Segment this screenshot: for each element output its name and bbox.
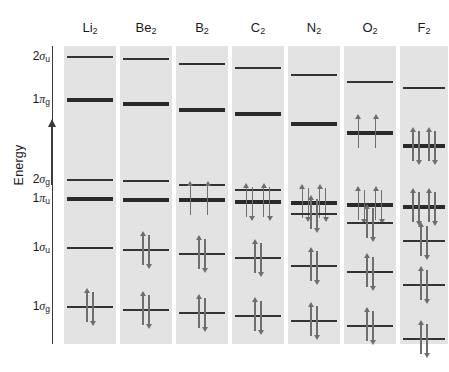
- electron-down-F2-2sigma_g-0-stem: [426, 226, 427, 256]
- mo-energy-diagram: Energy 2σu1πg2σg1πu1σu1σg Li2Be2B2C2N2O2…: [0, 0, 449, 372]
- electron-up-O2-1pi_u-0-head-icon: [355, 186, 361, 191]
- energy-level-Li2-2sigma_u: [67, 56, 113, 58]
- electron-down-C2-1pi_u-0-stem: [252, 187, 253, 217]
- energy-level-C2-2sigma_u: [235, 67, 281, 69]
- electron-down-B2-1sigma_u-0-head-icon: [202, 268, 208, 273]
- electron-down-F2-1pi_u-0-stem: [418, 192, 419, 222]
- electron-down-Li2-1sigma_g-0-head-icon: [90, 321, 96, 326]
- electron-down-F2-1pi_u-1-stem: [434, 192, 435, 222]
- energy-level-Be2-1pi_g: [123, 102, 169, 105]
- electron-up-B2-1sigma_u-0-stem: [198, 239, 199, 269]
- electron-down-F2-1pi_g-1-head-icon: [432, 160, 438, 165]
- energy-level-Li2-2sigma_g: [67, 179, 113, 181]
- column-header-Be2: Be2: [120, 20, 172, 36]
- column-header-N2: N2: [288, 20, 340, 36]
- electron-up-F2-1pi_u-1-head-icon: [426, 188, 432, 193]
- electron-down-N2-1sigma_u-0-head-icon: [314, 280, 320, 285]
- electron-down-C2-1pi_u-1-stem: [269, 187, 270, 217]
- electron-down-O2-2sigma_g-0-stem: [372, 208, 373, 238]
- energy-level-Li2-1pi_g: [67, 98, 113, 101]
- orbital-label-text: 2σu: [33, 49, 50, 63]
- electron-up-C2-1pi_u-0-head-icon: [243, 183, 249, 188]
- column-header-text: F2: [418, 20, 431, 35]
- energy-level-Be2-1pi_u: [123, 198, 169, 201]
- energy-level-F2-1pi_g: [403, 144, 445, 147]
- energy-level-O2-1pi_u: [347, 203, 393, 206]
- electron-up-B2-1sigma_u-0-head-icon: [196, 235, 202, 240]
- energy-level-B2-1pi_g: [179, 108, 225, 111]
- orbital-label-1sigma_g: 1σg: [33, 300, 50, 314]
- energy-level-C2-1pi_u: [235, 200, 281, 203]
- electron-up-F2-1pi_g-1-head-icon: [426, 127, 432, 132]
- electron-down-Be2-1sigma_u-0-stem: [148, 235, 149, 265]
- energy-level-O2-1sigma_u: [347, 271, 393, 273]
- column-header-text: Be2: [136, 20, 157, 35]
- electron-down-Li2-1sigma_g-0-stem: [92, 292, 93, 322]
- electron-down-C2-1sigma_u-0-stem: [260, 243, 261, 273]
- energy-level-F2-2sigma_u: [403, 87, 445, 89]
- electron-up-N2-1sigma_g-0-stem: [310, 306, 311, 336]
- electron-down-O2-1sigma_u-0-stem: [372, 257, 373, 287]
- energy-level-F2-1sigma_g: [403, 338, 445, 340]
- energy-axis-line: [52, 46, 53, 344]
- electron-down-C2-1pi_u-0-head-icon: [249, 216, 255, 221]
- electron-up-O2-1pi_g-0-stem: [358, 118, 359, 148]
- electron-up-N2-2sigma_g-0-head-icon: [308, 195, 314, 200]
- electron-up-F2-1pi_g-0-stem: [412, 131, 413, 161]
- energy-level-C2-2sigma_g: [235, 189, 281, 191]
- electron-up-C2-1sigma_u-0-stem: [254, 243, 255, 273]
- column-header-text: O2: [362, 20, 377, 35]
- electron-up-N2-1pi_u-1-head-icon: [317, 184, 323, 189]
- electron-up-B2-1pi_u-0-head-icon: [187, 181, 193, 186]
- electron-down-F2-1pi_g-0-stem: [418, 131, 419, 161]
- panel-O2: [344, 46, 396, 344]
- electron-up-Be2-1sigma_u-0-head-icon: [140, 231, 146, 236]
- energy-level-C2-1sigma_u: [235, 257, 281, 259]
- electron-up-O2-2sigma_g-0-head-icon: [364, 204, 370, 209]
- energy-level-Li2-1sigma_u: [67, 247, 113, 249]
- electron-up-O2-1pi_u-0-stem: [358, 190, 359, 220]
- energy-level-B2-1pi_u: [179, 198, 225, 201]
- electron-up-F2-2sigma_g-0-head-icon: [418, 222, 424, 227]
- orbital-label-1pi_g: 1πg: [33, 93, 50, 107]
- electron-down-F2-2sigma_g-0-head-icon: [424, 255, 430, 260]
- orbital-label-1sigma_u: 1σu: [33, 241, 50, 255]
- electron-up-O2-1sigma_g-0-stem: [366, 311, 367, 341]
- electron-down-N2-1sigma_g-0-stem: [316, 306, 317, 336]
- column-header-text: N2: [307, 20, 321, 35]
- panel-Be2: [120, 46, 172, 344]
- energy-level-O2-2sigma_u: [347, 81, 393, 83]
- column-header-text: Li2: [82, 20, 97, 35]
- electron-down-C2-1pi_u-1-head-icon: [267, 216, 273, 221]
- energy-level-Be2-1sigma_u: [123, 249, 169, 251]
- orbital-label-text: 1πu: [33, 191, 50, 205]
- electron-up-B2-1pi_u-0-stem: [190, 185, 191, 215]
- electron-up-B2-1pi_u-1-head-icon: [205, 181, 211, 186]
- electron-up-Be2-1sigma_g-0-stem: [142, 295, 143, 325]
- electron-up-O2-2sigma_g-0-stem: [366, 208, 367, 238]
- electron-down-Be2-1sigma_u-0-head-icon: [146, 264, 152, 269]
- electron-up-O2-1sigma_u-0-head-icon: [364, 253, 370, 258]
- electron-up-O2-1pi_g-1-stem: [375, 118, 376, 148]
- electron-down-N2-1pi_u-1-head-icon: [323, 217, 329, 222]
- electron-up-O2-1pi_u-1-head-icon: [373, 186, 379, 191]
- orbital-label-2sigma_g: 2σg: [33, 173, 50, 187]
- energy-level-C2-1sigma_g: [235, 315, 281, 317]
- electron-up-C2-1pi_u-1-stem: [263, 187, 264, 217]
- orbital-label-text: 2σg: [33, 172, 50, 186]
- orbital-label-text: 1πg: [33, 92, 50, 106]
- electron-up-O2-1pi_g-0-head-icon: [355, 114, 361, 119]
- electron-up-O2-1sigma_g-0-head-icon: [364, 307, 370, 312]
- electron-down-O2-1sigma_u-0-head-icon: [370, 286, 376, 291]
- electron-up-Li2-1sigma_g-0-head-icon: [84, 288, 90, 293]
- orbital-label-text: 1σg: [33, 299, 50, 313]
- electron-up-F2-1pi_u-0-stem: [412, 192, 413, 222]
- energy-level-F2-1pi_u: [403, 205, 445, 208]
- electron-up-N2-1sigma_g-0-head-icon: [308, 302, 314, 307]
- energy-level-Be2-2sigma_u: [123, 58, 169, 60]
- electron-up-C2-1sigma_u-0-head-icon: [252, 239, 258, 244]
- electron-up-F2-1sigma_u-0-stem: [420, 270, 421, 300]
- electron-up-O2-1sigma_u-0-stem: [366, 257, 367, 287]
- electron-up-F2-1sigma_g-0-head-icon: [418, 320, 424, 325]
- electron-up-N2-1pi_u-0-head-icon: [299, 184, 305, 189]
